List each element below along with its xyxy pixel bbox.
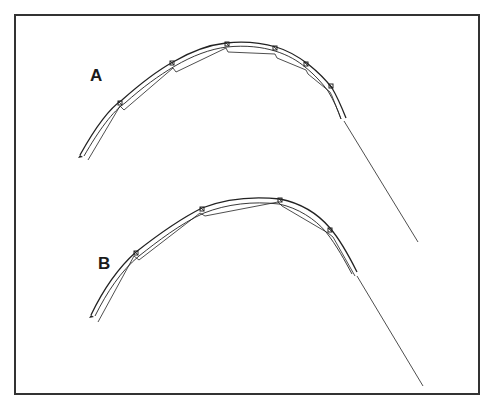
figure-frame [15,15,479,394]
arch-a-outer-curve-inner-edge [84,46,341,156]
arch-a-left-tip [78,155,83,158]
arch-b-outer-curve-inner-edge [95,203,352,316]
arch-b-tail-line [357,276,423,386]
arch-b [89,198,423,386]
arch-b-left-tip [89,315,94,318]
panel-label-b: B [98,255,110,272]
arch-a [78,42,418,242]
arch-a-outer-curve [80,42,346,155]
diagram-canvas: A B [0,0,491,406]
arch-b-inner-chords [98,202,355,322]
panel-label-a: A [90,67,102,84]
arch-b-outer-curve [91,198,357,315]
arch-a-joints [118,42,333,105]
arch-diagram-svg [0,0,491,406]
arch-a-inner-chords [88,48,341,160]
arch-a-tail-line [344,121,418,242]
